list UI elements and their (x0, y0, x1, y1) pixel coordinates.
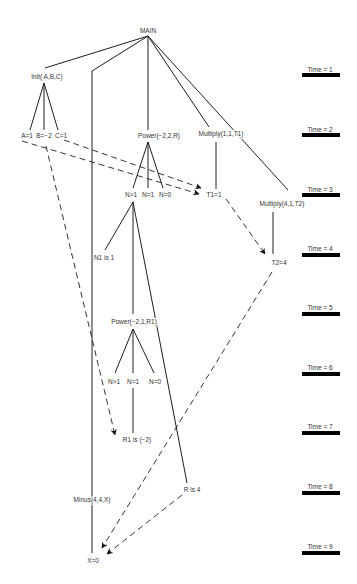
time-bar (302, 193, 340, 197)
time-label: Time = 6 (307, 364, 333, 371)
node-init: Init( A,B,C) (31, 73, 62, 81)
time-marker-4: Time = 4 (302, 245, 340, 258)
node-c: C=1 (55, 132, 67, 139)
edge-power2-neq0 (133, 329, 154, 373)
node-n1: N1 is 1 (94, 254, 115, 261)
node-multiply2: Multiply(4,1,T2) (260, 200, 305, 208)
time-label: Time = 2 (307, 126, 333, 133)
time-label: Time = 4 (307, 245, 333, 252)
edge-init-a (30, 83, 44, 130)
node-x: X=0 (87, 557, 99, 564)
arrow-a-t1 (22, 141, 199, 194)
time-label: Time = 7 (307, 423, 333, 430)
time-bar (302, 253, 340, 257)
time-marker-3: Time = 3 (302, 186, 340, 198)
node-r: R is 4 (184, 486, 201, 493)
arrow-t1-t2 (226, 199, 265, 254)
node-n-eq0-b: N=0 (149, 378, 161, 385)
dashed-edges (22, 140, 272, 554)
node-power1: Power(−2,2,R) (138, 132, 180, 140)
time-marker-6: Time = 6 (302, 364, 340, 377)
time-bar (302, 551, 340, 555)
arrow-c-t1 (64, 140, 201, 188)
time-marker-9: Time = 9 (302, 543, 340, 556)
time-marker-1: Time = 1 (302, 66, 340, 78)
node-t1: T1=1 (207, 191, 222, 198)
time-bar (302, 73, 340, 77)
node-minus: Minus(4,4,X) (74, 496, 111, 504)
node-n-eq1-b: N=1 (127, 378, 139, 385)
time-bar (302, 133, 340, 137)
edge-main-multiply1 (148, 36, 209, 127)
edge-power2-ngt1 (115, 329, 133, 373)
node-n-gt1-a: N>1 (125, 191, 137, 198)
time-label: Time = 9 (307, 543, 333, 550)
node-n-eq0-a: N=0 (159, 191, 171, 198)
arrow-r-x (107, 495, 182, 554)
node-labels: MAIN Init( A,B,C) A=1 B=−2 C=1 Power(−2,… (21, 27, 304, 564)
time-label: Time = 3 (307, 186, 333, 193)
time-bar (302, 312, 340, 316)
node-b: B=−2 (36, 132, 52, 139)
time-marker-8: Time = 8 (302, 483, 340, 496)
edge-power1-neq0 (148, 142, 163, 188)
edge-main-multiply2 (148, 36, 288, 190)
node-r1: R1 is (−2) (123, 436, 151, 444)
time-bar (302, 431, 340, 435)
node-t2: T2=4 (272, 259, 287, 266)
timeline: Time = 1 Time = 2 Time = 3 Time = 4 Time… (302, 66, 340, 556)
solid-edges (30, 36, 288, 553)
time-marker-7: Time = 7 (302, 423, 340, 436)
time-bar (302, 372, 340, 376)
edge-main-init (45, 36, 148, 68)
node-main: MAIN (140, 27, 157, 34)
arrow-t2-x (102, 272, 272, 548)
time-label: Time = 5 (307, 304, 333, 311)
edge-init-c (44, 83, 58, 130)
time-label: Time = 1 (307, 66, 333, 73)
time-bar (302, 491, 340, 495)
node-a: A=1 (21, 132, 33, 139)
edge-main-minus (92, 36, 148, 553)
edge-ngt1-n1 (105, 202, 133, 250)
execution-tree-diagram: MAIN Init( A,B,C) A=1 B=−2 C=1 Power(−2,… (0, 0, 357, 584)
time-marker-2: Time = 2 (302, 126, 340, 138)
time-marker-5: Time = 5 (302, 304, 340, 317)
node-power2: Power(−2,1,R1) (111, 318, 157, 326)
time-label: Time = 8 (307, 483, 333, 490)
node-multiply1: Multiply(1,1,T1) (199, 130, 244, 138)
node-n-gt1-b: N>1 (108, 378, 120, 385)
node-n-eq1-a: N=1 (142, 191, 154, 198)
arrow-b-r1 (46, 146, 115, 435)
